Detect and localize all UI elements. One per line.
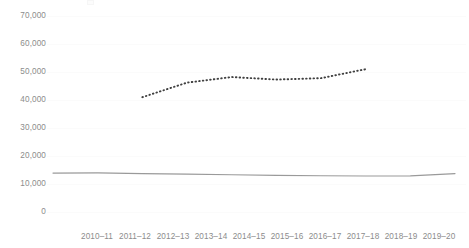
- x-tick-label-2016-17: 2016–17: [309, 232, 342, 242]
- chart-container: 70,000 60,000 50,000 40,000 30,000 20,00…: [0, 0, 469, 248]
- x-tick-label-2011-12: 2011–12: [119, 232, 151, 242]
- solid-series-line: [53, 173, 455, 176]
- x-tick-label-2014-15: 2014–15: [233, 232, 266, 242]
- x-tick-label-2015-16: 2015–16: [271, 232, 304, 242]
- x-tick-label-2013-14: 2013–14: [195, 232, 228, 242]
- x-axis: 2010–11 2011–12 2012–13 2013–14 2014–15 …: [0, 232, 469, 248]
- x-tick-label-2018-19: 2018–19: [385, 232, 418, 242]
- x-tick-label-2019-20: 2019–20: [423, 232, 456, 242]
- x-tick-label-2010-11: 2010–11: [81, 232, 113, 242]
- x-tick-label-2017-18: 2017–18: [347, 232, 380, 242]
- x-tick-label-2012-13: 2012–13: [157, 232, 190, 242]
- dotted-series-line: [142, 69, 365, 97]
- plot-area: [0, 0, 469, 248]
